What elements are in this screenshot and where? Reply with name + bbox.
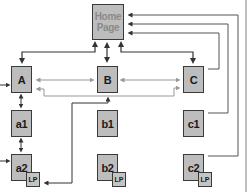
lp-badge-a2: LP [26,172,40,187]
badge-label: LP [29,176,38,183]
link-home-c [121,44,193,61]
node-a1: a1 [11,110,32,137]
node-label: b1 [101,118,113,130]
node-label: A [18,74,26,86]
home-label-line2: Page [97,22,120,33]
node-label: c1 [188,118,200,130]
badge-label: LP [115,176,124,183]
node-label: a1 [16,118,28,130]
link-c-home [130,33,219,69]
connector-lines [0,0,249,192]
lp-badge-c2: LP [198,172,212,187]
node-b: B [97,66,118,93]
badge-label: LP [201,176,210,183]
home-label-line1: Home [95,11,122,22]
node-c1: c1 [183,110,204,137]
home-page-node: Home Page [92,4,124,40]
node-a: A [11,66,32,93]
link-home-a [22,44,95,61]
node-label: C [190,74,198,86]
node-b1: b1 [97,110,118,137]
node-label: B [104,74,112,86]
node-c: C [183,66,204,93]
lp-badge-b2: LP [112,172,126,187]
